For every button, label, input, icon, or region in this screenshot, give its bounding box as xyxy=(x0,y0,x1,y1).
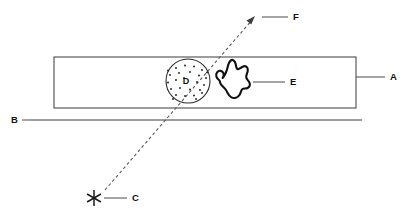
ray-arrowhead-icon xyxy=(247,16,256,25)
technical-diagram: D A B C E F xyxy=(0,0,409,215)
irregular-blob xyxy=(216,60,250,98)
dashed-ray xyxy=(105,20,252,190)
diagram-canvas: D A B C E F xyxy=(0,0,409,215)
source-asterisk-icon xyxy=(87,190,101,206)
label-d-text: D xyxy=(183,76,190,86)
label-a-text: A xyxy=(390,71,397,82)
label-c-text: C xyxy=(132,192,139,203)
label-f-text: F xyxy=(293,11,299,22)
label-e-text: E xyxy=(290,76,296,87)
horizontal-band-rectangle xyxy=(54,57,356,108)
label-b-text: B xyxy=(11,114,18,125)
